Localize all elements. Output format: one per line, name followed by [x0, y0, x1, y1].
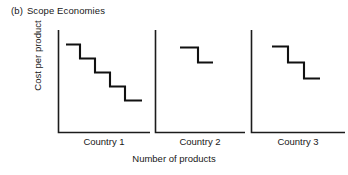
figure-root: (b)Scope Economies Cost per product Coun… [0, 0, 348, 175]
panel-country-2 [156, 30, 246, 133]
y-axis-label: Cost per product [32, 6, 43, 106]
panel-country-3 [252, 30, 346, 133]
panel-2-axis-frame [156, 30, 246, 133]
plot-canvas [0, 0, 348, 175]
panel-label-country-1: Country 1 [58, 136, 150, 147]
panel-3-axis-frame [252, 30, 346, 133]
panel-label-country-3: Country 3 [251, 136, 345, 147]
panel-2-step-curve [180, 48, 213, 63]
panel-3-step-curve [272, 47, 320, 79]
panel-1-step-curve [66, 45, 142, 101]
panel-country-1 [59, 30, 151, 133]
x-axis-label: Number of products [58, 153, 290, 164]
panel-label-country-2: Country 2 [155, 136, 245, 147]
